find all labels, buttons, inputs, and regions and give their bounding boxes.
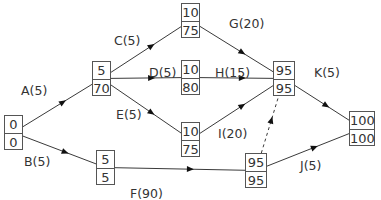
earliest-time: 100 xyxy=(350,112,374,130)
earliest-time: 10 xyxy=(182,4,199,22)
event-node: 1080 xyxy=(181,60,200,95)
activity-label: F(90) xyxy=(130,186,163,200)
event-node: 1075 xyxy=(181,3,200,38)
event-node: 55 xyxy=(96,150,115,185)
latest-time: 5 xyxy=(97,169,114,186)
earliest-time: 95 xyxy=(246,154,266,172)
event-node: 00 xyxy=(4,115,23,150)
arrowhead-icon xyxy=(147,108,154,114)
latest-time: 75 xyxy=(182,141,199,158)
dummy-activity-arrow xyxy=(261,96,278,153)
arrowhead-icon xyxy=(58,100,66,106)
event-node: 100100 xyxy=(349,111,375,146)
earliest-time: 10 xyxy=(182,61,199,79)
activity-label: C(5) xyxy=(114,33,140,48)
activity-label: D(5) xyxy=(149,65,176,80)
arrowhead-icon xyxy=(238,48,246,54)
arrowhead-icon xyxy=(61,148,69,154)
event-node: 1075 xyxy=(181,122,200,157)
activity-label: I(20) xyxy=(218,126,247,141)
latest-time: 95 xyxy=(274,80,294,97)
latest-time: 75 xyxy=(182,22,199,39)
earliest-time: 5 xyxy=(93,62,110,80)
activity-label: G(20) xyxy=(229,16,264,31)
latest-time: 95 xyxy=(246,172,266,189)
event-node: 570 xyxy=(92,61,111,96)
arrowhead-icon xyxy=(310,146,318,152)
arrowhead-icon xyxy=(322,101,330,107)
latest-time: 0 xyxy=(5,134,22,151)
latest-time: 100 xyxy=(350,130,374,147)
activity-label: E(5) xyxy=(116,107,142,122)
earliest-time: 10 xyxy=(182,123,199,141)
arrowhead-icon xyxy=(238,104,246,110)
activity-arrow xyxy=(295,86,349,121)
arrowhead-icon xyxy=(267,117,273,125)
earliest-time: 0 xyxy=(5,116,22,134)
activity-arrow xyxy=(115,168,245,171)
arrowhead-icon xyxy=(147,44,155,50)
arrowhead-icon xyxy=(187,166,194,172)
activity-label: H(15) xyxy=(215,65,250,80)
activity-label: J(5) xyxy=(300,158,321,173)
earliest-time: 95 xyxy=(274,62,294,80)
event-node: 9595 xyxy=(245,153,267,188)
latest-time: 70 xyxy=(93,80,110,97)
network-diagram: 005701075108095951075559595100100 A(5)B(… xyxy=(0,0,381,200)
activity-label: K(5) xyxy=(314,65,340,80)
latest-time: 80 xyxy=(182,79,199,96)
activity-label: B(5) xyxy=(24,154,50,169)
activity-label: A(5) xyxy=(21,83,47,98)
event-node: 9595 xyxy=(273,61,295,96)
earliest-time: 5 xyxy=(97,151,114,169)
